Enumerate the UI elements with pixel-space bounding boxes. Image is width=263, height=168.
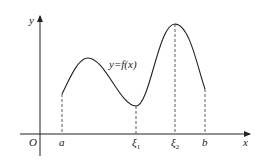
mark-b: b bbox=[202, 137, 208, 148]
function-graph-diagram: y x O y=f(x) a ξ1 ξ2 b bbox=[0, 0, 263, 168]
origin-label: O bbox=[29, 137, 37, 148]
mark-xi2: ξ2 bbox=[171, 137, 179, 151]
y-axis-label: y bbox=[29, 15, 34, 26]
curve-label: y=f(x) bbox=[109, 59, 137, 70]
dashed-guides bbox=[62, 24, 205, 134]
mark-xi1: ξ1 bbox=[132, 137, 140, 151]
mark-a: a bbox=[59, 137, 65, 148]
x-axis-label: x bbox=[243, 137, 248, 148]
